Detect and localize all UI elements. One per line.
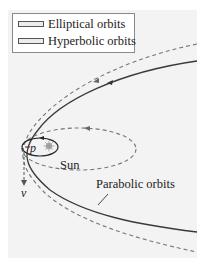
- legend: Elliptical orbits Hyperbolic orbits: [12, 13, 135, 53]
- ellipse-swatch-icon: [18, 21, 44, 27]
- sun-icon: [44, 141, 55, 152]
- perihelion-label: p: [30, 141, 36, 156]
- velocity-label: v: [21, 186, 26, 201]
- legend-item-elliptical: Elliptical orbits: [18, 16, 125, 32]
- legend-label: Hyperbolic orbits: [48, 34, 136, 49]
- small-ellipse-direction-arrow-icon: [39, 136, 44, 140]
- legend-item-hyperbolic: Hyperbolic orbits: [18, 33, 136, 49]
- hyperbola-swatch-icon: [18, 38, 44, 44]
- parabolic-leader-line: [98, 194, 108, 205]
- parabolic-orbit-curve: [27, 61, 197, 232]
- legend-label: Elliptical orbits: [48, 17, 125, 32]
- sun-label: Sun: [60, 158, 79, 173]
- parabolic-orbits-label: Parabolic orbits: [96, 177, 175, 192]
